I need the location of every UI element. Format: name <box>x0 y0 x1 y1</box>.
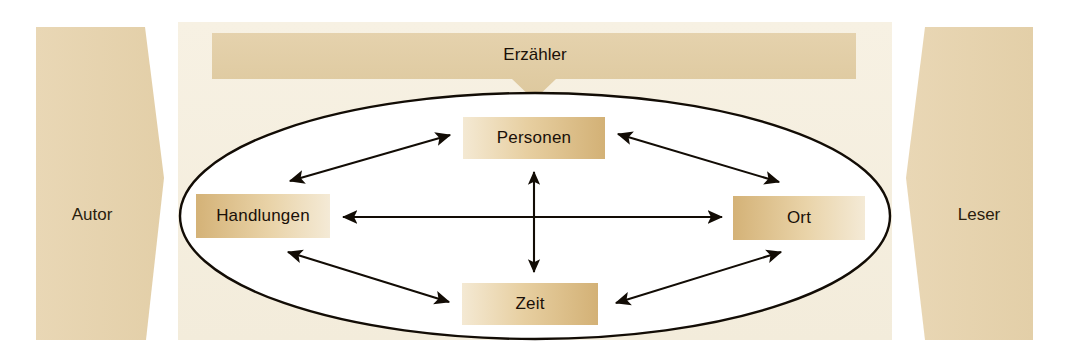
autor-label: Autor <box>72 205 113 224</box>
narrative-communication-diagram: Autor Leser Erzähler <box>0 0 1070 363</box>
node-ort-label: Ort <box>787 208 811 227</box>
erzaehler-label: Erzähler <box>503 45 567 64</box>
node-handlungen[interactable]: Handlungen <box>196 194 330 238</box>
diagram-canvas: Autor Leser Erzähler <box>0 0 1070 363</box>
leser-shape-body <box>906 27 1033 340</box>
leser-shape: Leser <box>906 27 1033 340</box>
autor-shape: Autor <box>36 27 164 340</box>
node-ort[interactable]: Ort <box>733 196 865 240</box>
node-personen[interactable]: Personen <box>463 117 605 159</box>
node-zeit[interactable]: Zeit <box>462 283 598 325</box>
node-personen-label: Personen <box>497 128 571 147</box>
node-zeit-label: Zeit <box>515 294 544 313</box>
node-handlungen-label: Handlungen <box>216 206 310 225</box>
autor-shape-body <box>36 27 164 340</box>
leser-label: Leser <box>958 205 1001 224</box>
